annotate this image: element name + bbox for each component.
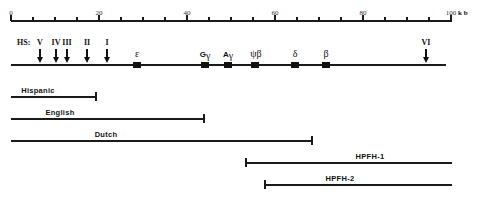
ruler-label-100: 100 [446, 9, 457, 17]
hs-label-i: I [105, 38, 108, 47]
ruler-tick [120, 17, 122, 21]
gene-box [224, 62, 232, 68]
arrowhead-icon [104, 57, 110, 63]
ruler-unit-label: k b [458, 9, 468, 17]
deletion-bar [11, 140, 312, 142]
deletion-bar [11, 118, 204, 120]
deletion-label-hispanic: Hispanic [21, 86, 55, 95]
ruler-label-40: 40 [184, 9, 191, 17]
ruler-label-20: 20 [96, 9, 103, 17]
hs-label-v: V [37, 38, 43, 47]
deletion-bar [11, 96, 96, 98]
ruler-label-60: 60 [272, 9, 279, 17]
deletion-label-english: English [45, 108, 74, 117]
gene-label-epsilon: ε [135, 48, 139, 59]
ruler-tick [340, 17, 342, 21]
hs-label-iii: III [62, 38, 71, 47]
arrowhead-icon [37, 57, 43, 63]
deletion-label-dutch: Dutch [95, 130, 118, 139]
ruler-tick [384, 17, 386, 21]
gene-box [322, 62, 330, 68]
gene-box [291, 62, 299, 68]
ruler-label-80: 80 [360, 9, 367, 17]
ruler-tick [428, 17, 430, 21]
gene-box [133, 62, 141, 68]
ruler-tick [164, 17, 166, 21]
ruler-tick [230, 17, 232, 21]
ruler-tick [54, 17, 56, 21]
arrowhead-icon [64, 57, 70, 63]
gene-label-sub: γ [229, 50, 233, 61]
ruler-tick [32, 17, 34, 21]
ruler-tick [76, 17, 78, 21]
deletion-label-hpfh-2: HPFH-2 [326, 174, 355, 183]
deletion-endcap [311, 136, 313, 145]
hs-label-vi: VI [422, 38, 431, 47]
deletion-endcap [203, 114, 205, 123]
gene-label-psi-beta: ψβ [250, 48, 261, 59]
arrowhead-icon [53, 57, 59, 63]
gene-label-delta: δ [293, 48, 298, 59]
hs-prefix-label: HS: [17, 38, 30, 47]
deletion-endcap [95, 92, 97, 101]
gene-label-sub: γ [206, 50, 210, 61]
gene-label-g-gamma: Gγ [200, 48, 211, 59]
deletion-label-hpfh-1: HPFH-1 [356, 152, 385, 161]
gene-label-a-gamma: Aγ [223, 48, 233, 59]
gene-box [201, 62, 209, 68]
hs-label-ii: II [84, 38, 90, 47]
ruler-tick [208, 17, 210, 21]
deletion-bar [246, 162, 452, 164]
hs-label-iv: IV [52, 38, 61, 47]
ruler-tick [318, 17, 320, 21]
ruler-tick [406, 17, 408, 21]
ruler-tick [252, 17, 254, 21]
arrowhead-icon [423, 57, 429, 63]
ruler-tick [142, 17, 144, 21]
arrowhead-icon [84, 57, 90, 63]
gene-label-beta: β [323, 48, 328, 59]
deletion-bar [265, 184, 452, 186]
ruler-tick [296, 17, 298, 21]
gene-box [251, 62, 259, 68]
ruler-label-0: 0 [9, 9, 13, 17]
gene-label-main: A [223, 50, 229, 59]
